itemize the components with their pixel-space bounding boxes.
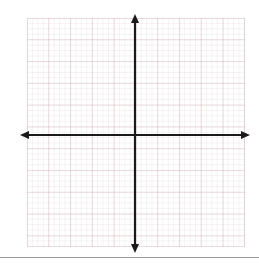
y-axis [131,14,139,253]
bottom-divider-rule [0,257,259,258]
x-axis-right-arrowhead [241,131,250,139]
coordinate-plane-figure [0,0,259,265]
x-axis-left-arrowhead [20,131,29,139]
y-axis-bottom-arrowhead [131,244,139,253]
origin-point [134,134,136,136]
axes-layer [0,0,259,265]
y-axis-top-arrowhead [131,14,139,23]
